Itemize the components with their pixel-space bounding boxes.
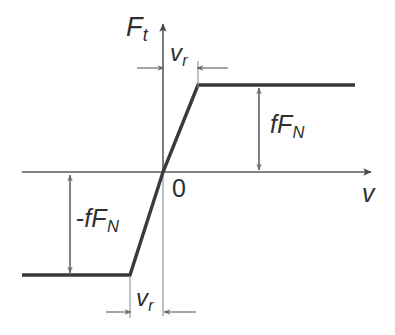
diagram-canvas [0, 0, 395, 335]
vr-upper-label-sub: r [182, 52, 187, 69]
neg-ffn-label-main: fF [84, 204, 106, 232]
y-axis-label: Ft [126, 14, 147, 41]
vr-lower-label-main: v [136, 284, 148, 311]
origin-label: 0 [172, 176, 186, 201]
ffn-label: fFN [270, 112, 304, 137]
axis-group [22, 24, 371, 316]
ffn-label-main: fF [270, 110, 292, 138]
neg-ffn-label-sub: N [107, 217, 119, 235]
neg-ffn-label: -fFN [76, 206, 118, 231]
vr-upper-label-main: v [170, 39, 182, 66]
friction-curve [22, 85, 355, 275]
friction-force-diagram: Ft vr vr fFN -fFN 0 v [0, 0, 395, 335]
vr-lower-label: vr [136, 286, 153, 310]
curve-polyline [22, 85, 355, 275]
vr-upper-label: vr [170, 41, 187, 65]
ffn-label-sub: N [293, 123, 305, 141]
vr-lower-label-sub: r [148, 297, 153, 314]
y-axis-label-sub: t [143, 25, 148, 45]
y-axis-label-main: F [126, 12, 143, 42]
x-axis-label: v [362, 181, 375, 206]
